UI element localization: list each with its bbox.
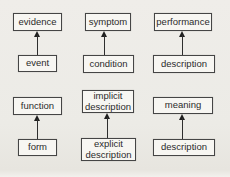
up-arrow-form-to-function [34,115,41,139]
box-symptom: symptom [85,13,131,31]
arrow-shaft [182,118,183,139]
diagram-canvas: evidence event symptom condition perform… [0,0,230,177]
box-meaning: meaning [153,97,213,114]
up-arrow-condition-to-symptom [101,31,108,55]
arrow-shaft [37,119,38,139]
up-arrow-description-to-meaning [179,114,186,139]
box-condition: condition [83,55,134,73]
box-function: function [13,97,62,115]
up-arrow-event-to-evidence [34,31,41,55]
up-arrow-explicit-to-implicit [104,113,111,138]
arrow-shaft [104,35,105,55]
box-description-bottom-right: description [153,139,215,156]
arrow-shaft [182,35,183,55]
up-arrow-description-to-performance [179,31,186,55]
box-form: form [18,139,57,156]
arrow-shaft [37,35,38,55]
box-implicit-description: implicit description [82,90,134,113]
box-performance: performance [154,13,212,31]
arrow-shaft [107,117,108,138]
box-evidence: evidence [13,13,62,31]
box-description-top-right: description [153,55,215,73]
box-event: event [18,55,57,72]
box-explicit-description: explicit description [81,138,136,161]
